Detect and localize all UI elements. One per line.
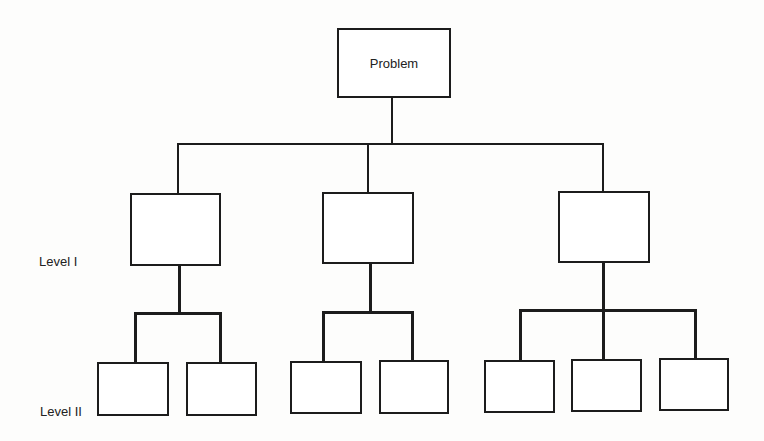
level-two-node-4	[379, 360, 449, 414]
level-two-node-1	[97, 362, 169, 416]
group-2-bus	[322, 311, 414, 314]
root-connector-vertical	[391, 97, 393, 145]
group-2-stem	[369, 263, 372, 312]
group-3-drop-2	[602, 309, 605, 360]
level-two-label: Level II	[40, 404, 82, 419]
level-one-drop-3	[602, 143, 604, 192]
problem-decomposition-tree: Problem Level I Level II	[0, 0, 764, 441]
level-one-node-3	[558, 191, 650, 263]
level-one-label: Level I	[39, 254, 77, 269]
level-one-drop-1	[177, 143, 179, 194]
group-1-stem	[178, 265, 181, 313]
root-node-label: Problem	[339, 56, 449, 71]
level-two-node-7	[659, 358, 729, 411]
level-two-node-6	[571, 359, 642, 412]
level-one-drop-2	[367, 143, 369, 193]
root-node-problem: Problem	[337, 28, 451, 98]
level-one-node-2	[322, 192, 414, 264]
level-two-node-5	[484, 360, 555, 413]
group-1-drop-1	[134, 312, 137, 363]
group-3-bus	[519, 309, 697, 312]
level-two-node-2	[186, 362, 257, 416]
group-2-drop-1	[322, 311, 325, 362]
level-one-bus-horizontal	[177, 143, 604, 145]
level-two-node-3	[290, 361, 362, 414]
group-1-drop-2	[219, 312, 222, 363]
group-2-drop-2	[411, 311, 414, 361]
group-3-drop-1	[519, 309, 522, 360]
group-3-stem	[602, 262, 605, 310]
group-1-bus	[134, 312, 222, 315]
level-one-node-1	[130, 193, 221, 266]
group-3-drop-3	[694, 309, 697, 359]
